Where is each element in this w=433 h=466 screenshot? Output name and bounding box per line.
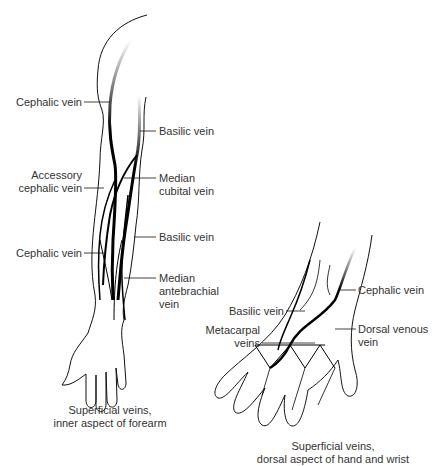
label-accessory-cephalic-vein: Accessory cephalic vein	[10, 169, 82, 195]
vein-illustration	[0, 0, 433, 466]
label-dorsal-venous-vein: Dorsal venous vein	[358, 323, 428, 349]
label-metacarpal-veins: Metacarpal veins	[196, 324, 260, 350]
label-cephalic-vein-hand: Cephalic vein	[358, 284, 424, 297]
label-basilic-vein-upper: Basilic vein	[159, 125, 214, 138]
caption-forearm: Superficial veins, inner aspect of forea…	[30, 404, 190, 430]
label-median-cubital-vein: Median cubital vein	[159, 172, 214, 198]
label-cephalic-vein-upper: Cephalic vein	[10, 96, 82, 109]
caption-hand: Superficial veins, dorsal aspect of hand…	[233, 440, 433, 466]
arm-outline	[62, 15, 147, 412]
vein-diagram: Cephalic vein Basilic vein Accessory cep…	[0, 0, 433, 466]
label-cephalic-vein-lower: Cephalic vein	[10, 247, 82, 260]
label-basilic-vein-lower: Basilic vein	[159, 231, 214, 244]
label-median-antebrachial-vein: Median antebrachial vein	[159, 272, 219, 311]
label-basilic-vein-hand: Basilic vein	[220, 305, 284, 318]
